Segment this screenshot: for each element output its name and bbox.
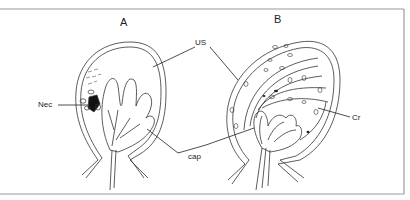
- label-cap: cap: [188, 153, 201, 161]
- panel-label-b: B: [274, 14, 281, 25]
- panel-a-glomerulus: [76, 42, 166, 190]
- necrosis-cells: [80, 90, 101, 112]
- diagram-drawing: [0, 0, 410, 200]
- figure-frame: A B US Nec cap Cr: [0, 0, 410, 200]
- label-cr: Cr: [352, 114, 360, 122]
- label-us: US: [195, 39, 206, 47]
- label-nec: Nec: [38, 101, 52, 109]
- panel-label-a: A: [120, 17, 127, 28]
- panel-b-glomerulus: [227, 41, 340, 190]
